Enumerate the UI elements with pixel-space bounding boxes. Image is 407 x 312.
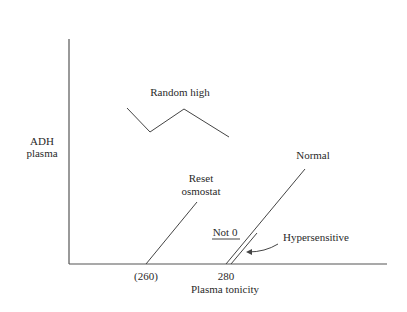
normal-label: Normal xyxy=(296,149,330,161)
y-axis-label-line1: ADH xyxy=(30,135,54,147)
random-high-series xyxy=(127,108,229,137)
x-tick-260: (260) xyxy=(134,270,158,283)
adh-diagram: ADH plasma (260) 280 Plasma tonicity Ran… xyxy=(0,0,407,312)
hypersensitive-label: Hypersensitive xyxy=(283,231,349,243)
reset-osmostat-label-line1: Reset xyxy=(189,172,213,184)
reset-osmostat-series xyxy=(146,202,197,264)
not-zero-label: Not 0 xyxy=(213,226,238,238)
x-tick-280: 280 xyxy=(218,270,235,282)
arrowhead-icon xyxy=(246,249,252,255)
y-axis-label-line2: plasma xyxy=(26,147,57,159)
reset-osmostat-label-line2: osmostat xyxy=(181,185,220,197)
hypersensitive-arrow xyxy=(248,244,278,252)
x-axis-label: Plasma tonicity xyxy=(191,283,260,295)
random-high-label: Random high xyxy=(150,86,210,98)
